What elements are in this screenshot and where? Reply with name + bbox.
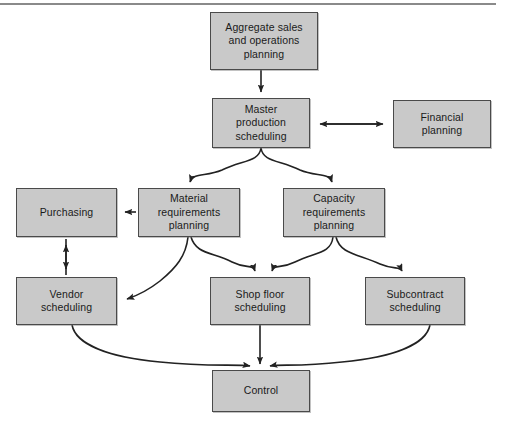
edge-vendor-to-control bbox=[72, 325, 250, 366]
edge-master-to-material bbox=[190, 148, 261, 182]
edge-capacity-to-shopfloor bbox=[272, 237, 333, 271]
node-capacity-requirements-planning[interactable]: Capacity requirements planning bbox=[283, 188, 385, 237]
node-vendor-scheduling[interactable]: Vendor scheduling bbox=[16, 277, 117, 325]
edge-material-to-shopfloor bbox=[191, 237, 255, 271]
edge-subcontract-to-control bbox=[270, 325, 430, 366]
edge-master-to-capacity bbox=[261, 148, 332, 182]
node-label: Subcontract scheduling bbox=[383, 288, 446, 315]
node-material-requirements-planning[interactable]: Material requirements planning bbox=[138, 188, 240, 237]
node-control[interactable]: Control bbox=[212, 370, 310, 412]
flow-diagram: Aggregate sales and operations planning … bbox=[0, 0, 508, 428]
node-financial-planning[interactable]: Financial planning bbox=[393, 100, 491, 148]
node-label: Aggregate sales and operations planning bbox=[222, 21, 305, 62]
node-label: Control bbox=[241, 384, 282, 398]
node-subcontract-scheduling[interactable]: Subcontract scheduling bbox=[365, 277, 465, 325]
node-label: Financial planning bbox=[418, 111, 467, 138]
node-label: Master production scheduling bbox=[232, 103, 289, 144]
header-divider-rule bbox=[0, 3, 496, 5]
edge-material-to-vendor bbox=[127, 237, 188, 299]
node-label: Vendor scheduling bbox=[38, 288, 95, 315]
node-aggregate-sales-and-operations-planning[interactable]: Aggregate sales and operations planning bbox=[210, 12, 318, 70]
node-label: Material requirements planning bbox=[155, 192, 223, 233]
node-purchasing[interactable]: Purchasing bbox=[16, 188, 117, 237]
node-label: Capacity requirements planning bbox=[300, 192, 368, 233]
edge-capacity-to-subcontract bbox=[336, 237, 402, 271]
node-master-production-scheduling[interactable]: Master production scheduling bbox=[212, 98, 310, 148]
node-label: Shop floor scheduling bbox=[231, 288, 288, 315]
node-label: Purchasing bbox=[37, 206, 97, 220]
node-shop-floor-scheduling[interactable]: Shop floor scheduling bbox=[210, 277, 310, 325]
